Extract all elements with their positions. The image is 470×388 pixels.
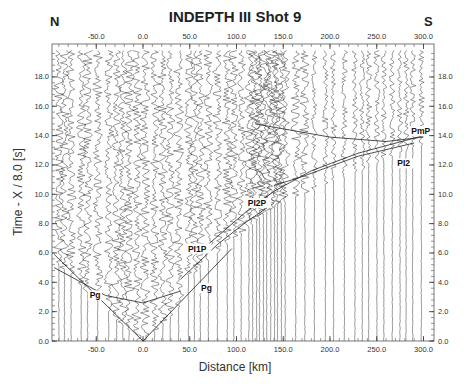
x-tick-label-bottom: 200.0 xyxy=(321,345,340,354)
y-tick-label-left: 8.0 xyxy=(39,219,49,228)
x-tick-label-top: 50.0 xyxy=(182,32,197,41)
y-tick-label-right: 4.0 xyxy=(438,278,448,287)
x-tick-label-top: 200.0 xyxy=(321,32,340,41)
y-tick-label-right: 18.0 xyxy=(438,72,453,81)
x-tick-label-top: -50.0 xyxy=(88,32,105,41)
x-axis-label: Distance [km] xyxy=(0,360,470,374)
y-tick-label-left: 16.0 xyxy=(34,102,49,111)
phase-label-pi1p: PI1P xyxy=(188,244,207,254)
phase-label-pi2p: PI2P xyxy=(248,198,267,208)
curve-pmp xyxy=(255,124,423,142)
x-tick-label-bottom: 50.0 xyxy=(182,345,197,354)
phase-label-pg: Pg xyxy=(201,283,212,293)
y-tick-label-right: 10.0 xyxy=(438,190,453,199)
y-tick-label-right: 14.0 xyxy=(438,131,453,140)
x-tick-label-bottom: -50.0 xyxy=(88,345,105,354)
y-tick-label-left: 18.0 xyxy=(34,72,49,81)
y-tick-label-left: 12.0 xyxy=(34,160,49,169)
seismic-traces xyxy=(54,51,424,342)
y-tick-label-left: 0.0 xyxy=(39,337,49,346)
y-tick-label-right: 12.0 xyxy=(438,160,453,169)
y-tick-label-left: 14.0 xyxy=(34,131,49,140)
x-tick-label-bottom: 300.0 xyxy=(414,345,433,354)
x-tick-label-top: 300.0 xyxy=(414,32,433,41)
x-tick-label-top: 0.0 xyxy=(138,32,148,41)
x-tick-label-bottom: 250.0 xyxy=(367,345,386,354)
x-tick-label-bottom: 100.0 xyxy=(227,345,246,354)
phase-label-pg: Pg xyxy=(90,290,101,300)
y-tick-label-left: 4.0 xyxy=(39,278,49,287)
y-tick-label-right: 0.0 xyxy=(438,337,448,346)
y-tick-label-right: 6.0 xyxy=(438,248,448,257)
y-tick-label-left: 10.0 xyxy=(34,190,49,199)
y-tick-label-right: 2.0 xyxy=(438,307,448,316)
x-tick-label-top: 250.0 xyxy=(367,32,386,41)
x-tick-label-top: 100.0 xyxy=(227,32,246,41)
y-axis-label: Time - X / 8.0 [s] xyxy=(11,122,25,262)
y-tick-label-left: 6.0 xyxy=(39,248,49,257)
phase-label-pi2: PI2 xyxy=(397,158,410,168)
x-tick-label-bottom: 0.0 xyxy=(138,345,148,354)
x-tick-label-top: 150.0 xyxy=(274,32,293,41)
phase-label-pmp: PmP xyxy=(411,126,430,136)
y-tick-label-left: 2.0 xyxy=(39,307,49,316)
y-tick-label-right: 8.0 xyxy=(438,219,448,228)
x-tick-label-bottom: 150.0 xyxy=(274,345,293,354)
seismic-record-plot: -50.0-50.00.00.050.050.0100.0100.0150.01… xyxy=(0,0,470,388)
y-tick-label-right: 16.0 xyxy=(438,102,453,111)
